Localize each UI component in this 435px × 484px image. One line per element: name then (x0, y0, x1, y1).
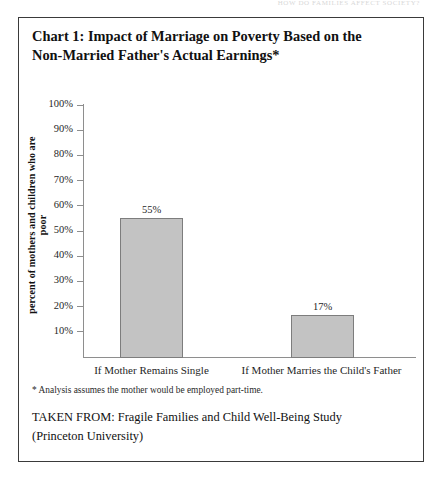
y-axis-title: percent of mothers and children who are … (26, 129, 48, 321)
plot-area: percent of mothers and children who are … (19, 18, 425, 463)
y-tick-30: 30% (77, 281, 83, 282)
bar-if-mother-marries-father[interactable]: 17% (291, 315, 354, 358)
x-category-label-1: If Mother Marries the Child's Father (224, 363, 419, 378)
y-tick-label-10: 10% (54, 324, 73, 338)
y-tick-80: 80% (77, 155, 83, 156)
page-running-header: HOW DO FAMILIES AFFECT SOCIETY? (205, 0, 420, 8)
source-line-1: TAKEN FROM: Fragile Families and Child W… (32, 408, 407, 427)
y-tick-70: 70% (77, 180, 83, 181)
y-tick-label-60: 60% (54, 198, 73, 212)
y-tick-10: 10% (77, 331, 83, 332)
chart-footnote: * Analysis assumes the mother would be e… (32, 385, 263, 395)
y-tick-50: 50% (77, 231, 83, 232)
bar-value-label-1: 17% (313, 301, 332, 312)
y-tick-label-50: 50% (54, 223, 73, 237)
y-tick-label-70: 70% (54, 173, 73, 187)
chart-figure-box: Chart 1: Impact of Marriage on Poverty B… (18, 17, 424, 462)
y-tick-100: 100% (77, 105, 83, 106)
chart-source-note: TAKEN FROM: Fragile Families and Child W… (32, 408, 407, 446)
y-tick-label-80: 80% (54, 147, 73, 161)
y-tick-label-20: 20% (54, 299, 73, 313)
y-tick-90: 90% (77, 130, 83, 131)
y-tick-40: 40% (77, 256, 83, 257)
y-tick-label-30: 30% (54, 273, 73, 287)
y-tick-20: 20% (77, 306, 83, 307)
bar-if-mother-remains-single[interactable]: 55% (120, 218, 183, 358)
y-tick-label-40: 40% (54, 248, 73, 262)
y-axis-line (83, 104, 84, 358)
source-line-2: (Princeton University) (32, 427, 407, 446)
y-tick-label-90: 90% (54, 122, 73, 136)
x-category-label-0: If Mother Remains Single (89, 363, 214, 378)
y-tick-60: 60% (77, 205, 83, 206)
y-tick-label-100: 100% (49, 97, 74, 111)
bar-value-label-0: 55% (142, 204, 161, 215)
